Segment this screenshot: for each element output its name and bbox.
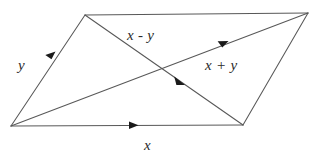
parallelogram-diagonals (11, 13, 308, 126)
label-x: x (143, 137, 151, 153)
diagonal-sum-line (11, 13, 308, 126)
label-y: y (16, 57, 25, 73)
arrowhead-x-icon (129, 121, 139, 129)
vector-labels: x - y x + y y x (16, 27, 237, 153)
edge-right-side (243, 13, 308, 125)
vector-parallelogram-diagram: x - y x + y y x (0, 0, 317, 157)
figure-root: x - y x + y y x (0, 0, 317, 157)
label-x-plus-y: x + y (204, 57, 237, 73)
edge-top-side (85, 13, 308, 15)
arrowhead-y-icon (45, 52, 55, 60)
label-x-minus-y: x - y (126, 27, 154, 43)
edge-bottom-side (11, 125, 243, 126)
